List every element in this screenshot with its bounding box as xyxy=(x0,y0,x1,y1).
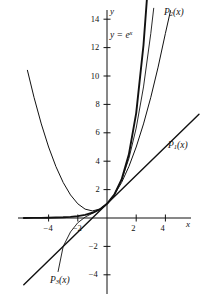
y-tick-label: 4 xyxy=(95,156,99,166)
y-axis-label: y xyxy=(110,6,114,16)
y-tick-label: 2 xyxy=(95,184,99,194)
y-tick-label: 12 xyxy=(91,42,100,52)
y-tick-label: 10 xyxy=(91,71,100,81)
x-tick-label: −4 xyxy=(44,223,53,233)
p2-curve-label: P2(x) xyxy=(164,7,184,17)
exp-curve-label-text: y = e xyxy=(110,30,130,40)
axes-group xyxy=(18,10,191,294)
curve-p2x xyxy=(27,11,170,211)
x-tick-label: 2 xyxy=(131,223,135,233)
exp-curve-label-exponent: x xyxy=(130,29,133,36)
y-tick-label: 6 xyxy=(95,127,99,137)
x-tick-label: −2 xyxy=(73,223,82,233)
figure-canvas: y x y = ex P2(x) P1(x) P3(x) −4−22414121… xyxy=(0,0,201,300)
y-tick-label: −4 xyxy=(89,269,98,279)
x-axis-label: x xyxy=(186,219,190,229)
p3-arg: (x) xyxy=(59,275,70,285)
p1-arg: (x) xyxy=(177,140,188,150)
y-tick-label: −2 xyxy=(89,241,98,251)
p1-curve-label: P1(x) xyxy=(168,140,188,150)
p2-arg: (x) xyxy=(173,7,184,17)
x-tick-label: 4 xyxy=(160,223,164,233)
y-tick-label: 14 xyxy=(91,14,100,24)
y-tick-label: 8 xyxy=(95,99,99,109)
p3-curve-label: P3(x) xyxy=(50,275,70,285)
exp-curve-label: y = ex xyxy=(110,29,132,40)
